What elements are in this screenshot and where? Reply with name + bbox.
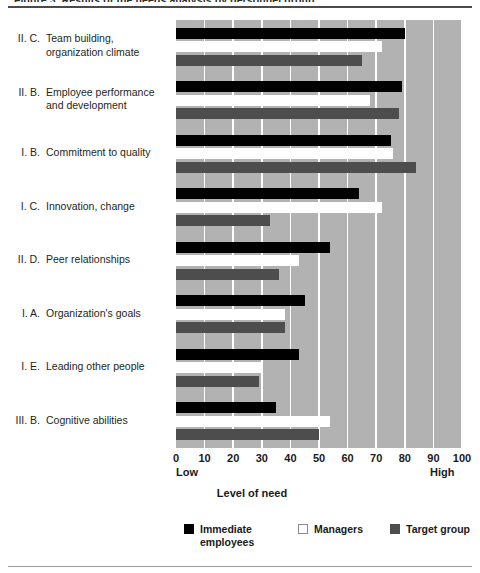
x-tick-label-30: 30 (256, 452, 268, 464)
bar (176, 95, 370, 106)
category-label: I. E.Leading other people (0, 360, 168, 374)
legend-swatch-icon (390, 524, 400, 534)
x-tick-label-100: 100 (453, 452, 471, 464)
category-label-text: Team building, organization climate (46, 32, 168, 59)
category-label-text: Leading other people (46, 360, 168, 374)
category-label-number: II. D. (0, 253, 46, 267)
category-label-text: Cognitive abilities (46, 414, 168, 428)
bar (176, 135, 391, 146)
category-label-number: I. C. (0, 200, 46, 214)
legend-label: Immediate employees (200, 523, 254, 549)
bar (176, 322, 285, 333)
category-label: III. B.Cognitive abilities (0, 414, 168, 428)
x-tick-label-90: 90 (427, 452, 439, 464)
x-axis-low-label: Low (176, 466, 198, 478)
bar (176, 309, 285, 320)
category-label-text: Organization's goals (46, 307, 168, 321)
category-label-number: I. B. (0, 146, 46, 160)
bar (176, 81, 402, 92)
category-axis-labels: II. C.Team building, organization climat… (0, 20, 170, 448)
x-tick-label-10: 10 (198, 452, 210, 464)
bar (176, 215, 270, 226)
x-tick-label-20: 20 (227, 452, 239, 464)
category-label-number: I. E. (0, 360, 46, 374)
x-axis-title: Level of need (0, 487, 480, 499)
legend-item: Target group (390, 523, 470, 536)
category-label-text: Commitment to quality (46, 146, 168, 160)
legend-item: Managers (298, 523, 363, 536)
x-tick-label-80: 80 (399, 452, 411, 464)
figure-caption-remnant: Figure 3. Results of the needs analysis … (14, 0, 454, 2)
bar (176, 55, 362, 66)
x-axis-high-label: High (430, 466, 454, 478)
bar (176, 429, 319, 440)
x-tick-label-70: 70 (370, 452, 382, 464)
chart-legend: Immediate employeesManagersTarget group (176, 523, 476, 563)
category-label: I. A.Organization's goals (0, 307, 168, 321)
bar (176, 255, 299, 266)
bar (176, 295, 305, 306)
category-label: II. C.Team building, organization climat… (0, 32, 168, 59)
legend-label: Managers (314, 523, 363, 536)
category-label-number: III. B. (0, 414, 46, 428)
legend-swatch-icon (184, 524, 194, 534)
x-tick-label-50: 50 (313, 452, 325, 464)
legend-item: Immediate employees (184, 523, 254, 549)
category-label-number: II. C. (0, 32, 46, 59)
x-tick-label-40: 40 (284, 452, 296, 464)
category-label-text: Innovation, change (46, 200, 168, 214)
category-label: II. D.Peer relationships (0, 253, 168, 267)
bar (176, 188, 359, 199)
bar (176, 416, 330, 427)
category-label: I. C.Innovation, change (0, 200, 168, 214)
category-label-number: II. B. (0, 86, 46, 113)
bar (176, 148, 393, 159)
bar (176, 41, 382, 52)
bar (176, 362, 262, 373)
bar (176, 202, 382, 213)
category-label: II. B.Employee performance and developme… (0, 86, 168, 113)
bars-layer (176, 20, 462, 448)
bottom-horizontal-rule (8, 566, 472, 567)
x-tick-label-0: 0 (173, 452, 179, 464)
bar (176, 162, 416, 173)
category-label-number: I. A. (0, 307, 46, 321)
top-horizontal-rule (8, 6, 472, 8)
category-label: I. B.Commitment to quality (0, 146, 168, 160)
category-label-text: Employee performance and development (46, 86, 168, 113)
x-axis-ticks: 0102030405060708090100 (176, 452, 462, 468)
legend-swatch-icon (298, 524, 308, 534)
legend-label: Target group (406, 523, 470, 536)
bar (176, 376, 259, 387)
category-label-text: Peer relationships (46, 253, 168, 267)
bar (176, 349, 299, 360)
bar (176, 242, 330, 253)
bar (176, 269, 279, 280)
x-tick-label-60: 60 (341, 452, 353, 464)
bar (176, 28, 405, 39)
x-axis-title-text: Level of need (217, 487, 287, 499)
bar (176, 108, 399, 119)
bar (176, 402, 276, 413)
figure-container: Figure 3. Results of the needs analysis … (0, 0, 480, 573)
